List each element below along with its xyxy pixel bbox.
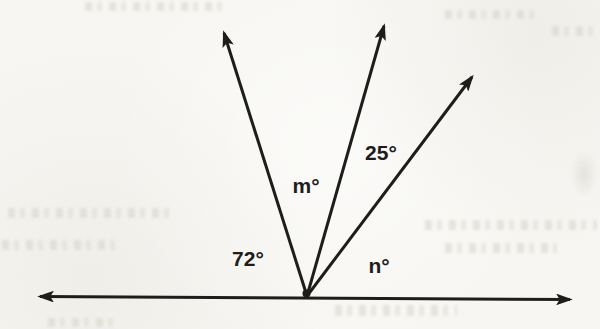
angle-diagram: 72° m° 25° n°: [0, 0, 600, 329]
angle-label-72: 72°: [232, 247, 264, 270]
vertex-point: [303, 290, 311, 298]
angle-label-25: 25°: [365, 141, 397, 164]
angle-label-m: m°: [292, 174, 319, 197]
scanned-geometry-page: 72° m° 25° n°: [0, 0, 600, 329]
angle-label-n: n°: [368, 254, 389, 277]
